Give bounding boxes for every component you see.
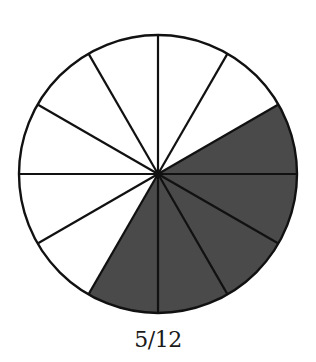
center-point (155, 171, 162, 178)
fraction-label: 5/12 (0, 327, 316, 352)
fraction-circle-diagram (0, 0, 316, 362)
